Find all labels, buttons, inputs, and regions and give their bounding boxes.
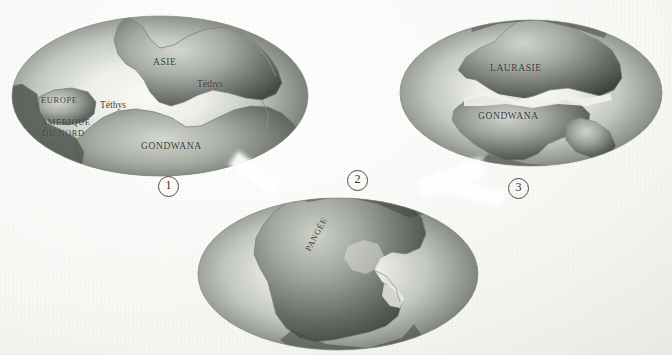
globe-3 (398, 18, 664, 170)
marker-2[interactable]: 2 (347, 170, 368, 191)
figure-canvas: ASIE Téthys Téthys EUROPE AMERIQUE DU NO… (0, 0, 672, 355)
globe-2 (196, 196, 480, 352)
marker-3[interactable]: 3 (508, 178, 529, 199)
marker-1[interactable]: 1 (158, 176, 179, 197)
globe-1 (10, 14, 310, 179)
